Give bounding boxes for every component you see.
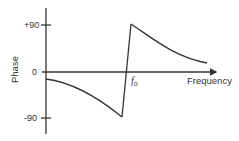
y-tick-label-neg90: -90: [24, 113, 37, 123]
y-tick-label-pos90: +90: [24, 20, 39, 30]
resonant-frequency-label: fo: [131, 75, 138, 87]
phase-curve-below-f0: [46, 79, 122, 117]
phase-jump-at-f0: [122, 24, 131, 117]
phase-frequency-diagram: +90 0 -90 Phase Frequency fo: [0, 0, 239, 141]
phase-curve-above-f0: [131, 24, 207, 63]
y-tick-label-zero: 0: [32, 67, 37, 77]
y-axis-title: Phase: [9, 56, 20, 83]
x-axis-title: Frequency: [187, 75, 232, 86]
